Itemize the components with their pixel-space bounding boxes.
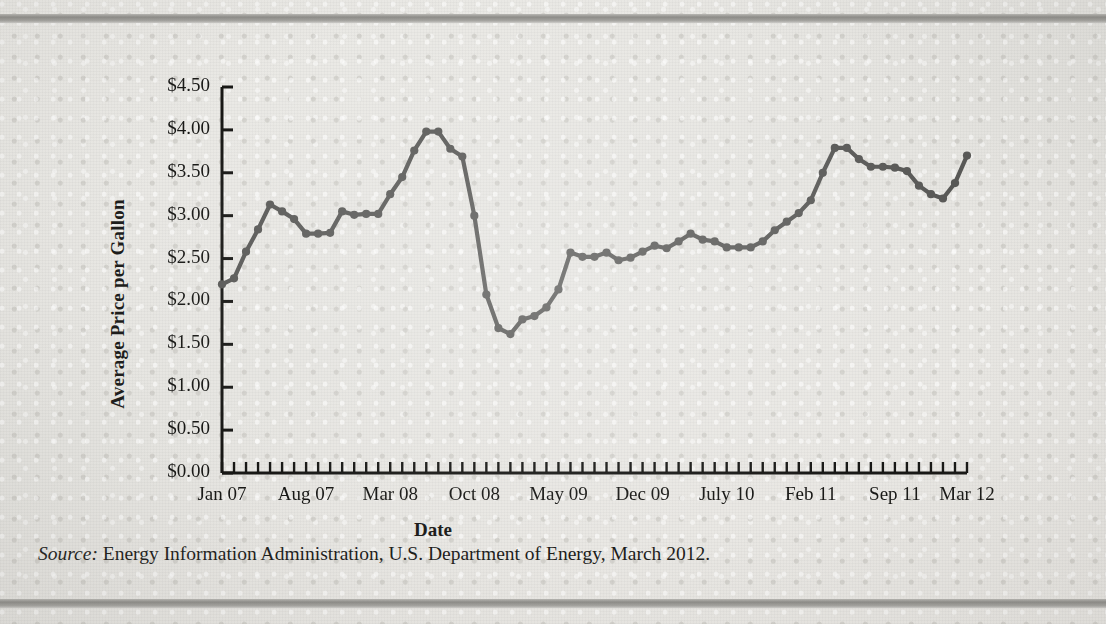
source-note: Source: Energy Information Administratio… [0, 543, 1106, 565]
y-tick-label: $1.00 [124, 374, 210, 396]
gasoline-price-figure: Average Price per Gallon $0.00$0.50$1.00… [0, 23, 1106, 599]
bottom-rule [0, 599, 1106, 608]
y-tick-label: $4.00 [124, 117, 210, 139]
source-text: Energy Information Administration, U.S. … [98, 543, 710, 564]
x-tick-label: Oct 08 [449, 483, 500, 505]
source-label: Source: [38, 543, 98, 564]
x-tick-label: Feb 11 [785, 483, 837, 505]
y-tick-label: $1.50 [124, 331, 210, 353]
x-tick-label: Dec 09 [615, 483, 669, 505]
x-axis [222, 462, 967, 473]
y-tick-label: $2.00 [124, 288, 210, 310]
x-axis-title-text: Date [414, 519, 452, 540]
chart-plot-area: $0.00$0.50$1.00$1.50$2.00$2.50$3.00$3.50… [0, 23, 1106, 523]
x-tick-label: Mar 08 [363, 483, 418, 505]
y-tick-label: $0.50 [124, 417, 210, 439]
y-tick-label: $4.50 [124, 74, 210, 96]
x-axis-title: Date [0, 519, 1106, 541]
x-tick-label: Jan 07 [197, 483, 246, 505]
line-chart-svg [0, 23, 1106, 523]
top-rule [0, 14, 1106, 23]
y-tick-label: $3.00 [124, 203, 210, 225]
price-series [218, 128, 971, 339]
y-tick-label: $2.50 [124, 246, 210, 268]
x-tick-label: July 10 [699, 483, 754, 505]
y-tick-label: $3.50 [124, 160, 210, 182]
x-tick-label: Sep 11 [869, 483, 921, 505]
y-tick-label: $0.00 [124, 460, 210, 482]
x-tick-label: Aug 07 [278, 483, 334, 505]
x-tick-label: Mar 12 [939, 483, 994, 505]
x-tick-label: May 09 [529, 483, 588, 505]
